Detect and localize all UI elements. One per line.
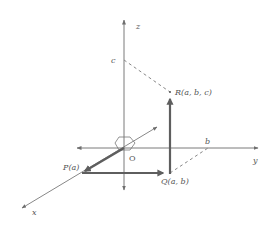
point-r-marker — [169, 91, 171, 93]
point-r-label: R(a, b, c) — [174, 88, 212, 97]
tick-label-c: c — [111, 56, 116, 65]
vector-o-to-p — [85, 148, 124, 171]
y-axis-label: y — [252, 156, 258, 165]
z-axis-label: z — [135, 22, 141, 31]
tick-label-b: b — [205, 137, 210, 146]
origin-label: O — [129, 154, 136, 163]
point-p-label: P(a) — [62, 163, 79, 172]
dashed-q-to-b — [170, 148, 208, 173]
x-axis-label: x — [32, 208, 37, 217]
coordinate-diagram: z y x O c b R(a, b, c) P(a) Q(a, b) — [0, 0, 276, 232]
point-q-label: Q(a, b) — [161, 177, 189, 186]
dashed-c-to-r — [124, 60, 170, 92]
